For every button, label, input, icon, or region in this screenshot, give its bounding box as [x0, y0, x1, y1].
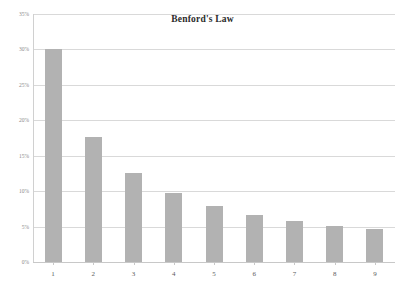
- y-axis-tick-label: 35%: [3, 11, 29, 17]
- x-axis-tick-mark: [294, 262, 295, 265]
- x-axis-tick-label: 2: [83, 270, 103, 278]
- x-axis-tick-mark: [335, 262, 336, 265]
- x-axis-tick-mark: [254, 262, 255, 265]
- x-axis-tick-label: 9: [365, 270, 385, 278]
- x-axis-tick-label: 8: [325, 270, 345, 278]
- bar: [286, 221, 303, 262]
- x-axis-tick-label: 4: [164, 270, 184, 278]
- x-axis-tick-label: 3: [124, 270, 144, 278]
- x-axis-tick-mark: [53, 262, 54, 265]
- y-axis-tick-label: 30%: [3, 46, 29, 52]
- x-axis-tick-mark: [214, 262, 215, 265]
- y-axis-tick-label: 0%: [3, 259, 29, 265]
- y-axis-tick-label: 25%: [3, 82, 29, 88]
- y-axis-tick-label: 10%: [3, 188, 29, 194]
- x-axis-tick-label: 1: [43, 270, 63, 278]
- bar: [326, 226, 343, 262]
- bars-group: [33, 14, 395, 262]
- bar: [366, 229, 383, 262]
- bar: [165, 193, 182, 262]
- bar: [85, 137, 102, 262]
- bar: [125, 173, 142, 262]
- y-axis-tick-label: 20%: [3, 117, 29, 123]
- y-axis-tick-label: 15%: [3, 153, 29, 159]
- bar: [246, 215, 263, 262]
- x-axis-tick-mark: [93, 262, 94, 265]
- x-axis-tick-mark: [174, 262, 175, 265]
- x-axis-tick-label: 7: [284, 270, 304, 278]
- y-axis-tick-label: 5%: [3, 224, 29, 230]
- x-axis-tick-mark: [134, 262, 135, 265]
- x-axis-tick-mark: [375, 262, 376, 265]
- x-axis-group: 123456789: [33, 262, 395, 292]
- bar: [206, 206, 223, 262]
- x-axis-tick-label: 5: [204, 270, 224, 278]
- x-axis-tick-label: 6: [244, 270, 264, 278]
- benfords-law-bar-chart: Benford's Law 0%5%10%15%20%25%30%35% 123…: [0, 0, 405, 292]
- bar: [45, 49, 62, 262]
